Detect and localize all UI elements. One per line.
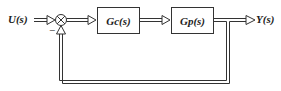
plant-block: Gp(s) [171, 7, 214, 34]
output-label: Y(s) [256, 13, 274, 25]
diagram-wires [0, 0, 281, 91]
controller-label: Gc(s) [106, 15, 130, 27]
plant-label: Gp(s) [180, 15, 205, 27]
input-label: U(s) [8, 13, 28, 25]
controller-block: Gc(s) [97, 7, 140, 34]
minus-sign: − [49, 24, 55, 36]
